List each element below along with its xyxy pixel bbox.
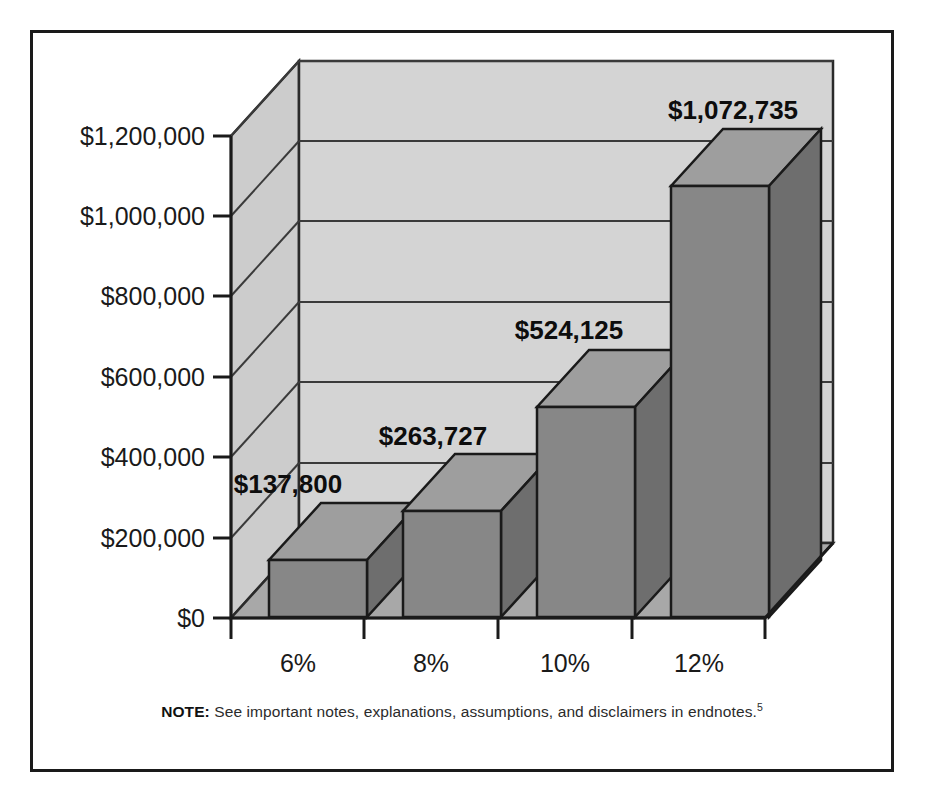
bar-front-face-10pct [537,407,635,617]
data-label-10pct: $524,125 [515,315,623,345]
bar-side-face-12pct [769,129,821,617]
three-d-bar-chart: $1,200,000 $1,000,000 $800,000 $600,000 … [33,33,891,769]
y-tick-label-800000: $800,000 [101,282,205,310]
y-tick-label-400000: $400,000 [101,443,205,471]
chart-page: $1,200,000 $1,000,000 $800,000 $600,000 … [0,0,928,808]
y-tick-label-1000000: $1,000,000 [80,202,205,230]
bar-front-face-6pct [269,560,367,617]
y-tick-label-600000: $600,000 [101,363,205,391]
x-axis-ticks [231,618,765,639]
figure-frame: $1,200,000 $1,000,000 $800,000 $600,000 … [30,30,894,772]
x-category-label-10pct: 10% [540,649,590,677]
x-category-label-6pct: 6% [280,649,316,677]
y-tick-label-200000: $200,000 [101,524,205,552]
x-category-label-8pct: 8% [413,649,449,677]
data-label-12pct: $1,072,735 [668,95,798,125]
y-axis-ticks [213,136,231,618]
footnote: NOTE: See important notes, explanations,… [33,701,891,721]
y-tick-label-1200000: $1,200,000 [80,122,205,150]
bar-group-10pct[interactable] [537,350,687,617]
bar-group-12pct[interactable] [671,129,821,617]
x-category-label-12pct: 12% [674,649,724,677]
bar-front-face-12pct [671,186,769,617]
footnote-superscript: 5 [757,701,763,713]
y-tick-label-0: $0 [177,604,205,632]
bar-front-face-8pct [403,511,501,617]
footnote-text: See important notes, explanations, assum… [210,703,757,720]
footnote-label: NOTE: [161,703,210,720]
data-label-6pct: $137,800 [234,469,342,499]
data-label-8pct: $263,727 [379,421,487,451]
